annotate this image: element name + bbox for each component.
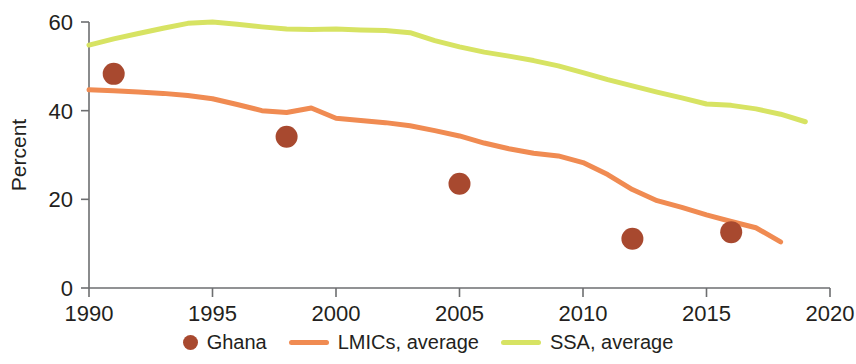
y-axis-ticks: 0204060	[49, 10, 89, 301]
legend-item-label: LMICs, average	[338, 332, 479, 352]
legend-line-icon	[289, 340, 329, 345]
chart-figure: 0204060 1990199520002005201020152020 Per…	[0, 0, 856, 364]
series-point	[449, 173, 471, 195]
legend-item-label: SSA, average	[550, 332, 673, 352]
x-tick-label: 2020	[806, 301, 855, 326]
x-tick-label: 2015	[682, 301, 731, 326]
series-point	[276, 126, 298, 148]
y-tick-label: 0	[61, 276, 73, 301]
y-tick-label: 20	[49, 187, 73, 212]
chart-legend: GhanaLMICs, averageSSA, average	[0, 332, 856, 352]
y-tick-label: 40	[49, 99, 73, 124]
series-point	[103, 63, 125, 85]
x-axis-ticks: 1990199520002005201020152020	[65, 288, 855, 326]
series-point	[621, 228, 643, 250]
chart-series-lines	[89, 22, 805, 242]
y-tick-label: 60	[49, 10, 73, 35]
legend-line-icon	[501, 340, 541, 345]
series-point	[720, 221, 742, 243]
y-axis-title: Percent	[7, 119, 30, 192]
legend-item[interactable]: Ghana	[183, 332, 267, 352]
legend-item[interactable]: LMICs, average	[289, 332, 479, 352]
legend-item-label: Ghana	[207, 332, 267, 352]
x-tick-label: 2010	[559, 301, 608, 326]
series-line	[89, 22, 805, 122]
x-tick-label: 2005	[435, 301, 484, 326]
series-line	[89, 90, 781, 242]
x-tick-label: 1995	[188, 301, 237, 326]
legend-item[interactable]: SSA, average	[501, 332, 673, 352]
legend-dot-icon	[183, 335, 198, 350]
x-tick-label: 2000	[312, 301, 361, 326]
x-tick-label: 1990	[65, 301, 114, 326]
chart-plot-area: 0204060 1990199520002005201020152020 Per…	[0, 0, 856, 364]
